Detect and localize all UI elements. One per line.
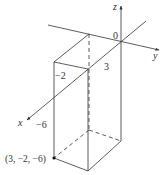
- origin-label: 0: [113, 30, 118, 41]
- y-axis: [48, 25, 159, 50]
- z-length-label: −6: [36, 119, 47, 130]
- z-axis-label: z: [112, 1, 117, 12]
- y-axis-label: y: [152, 50, 158, 61]
- point-label: (3, −2, −6): [5, 154, 46, 165]
- y-length-label: −2: [55, 70, 66, 81]
- box-edges: [54, 34, 121, 171]
- x-axis-label: x: [17, 117, 23, 128]
- point-marker: [52, 156, 55, 159]
- box-diagram: z y x 0 3 −2 −6 (3, −2, −6): [0, 0, 165, 175]
- x-length-label: 3: [104, 61, 109, 72]
